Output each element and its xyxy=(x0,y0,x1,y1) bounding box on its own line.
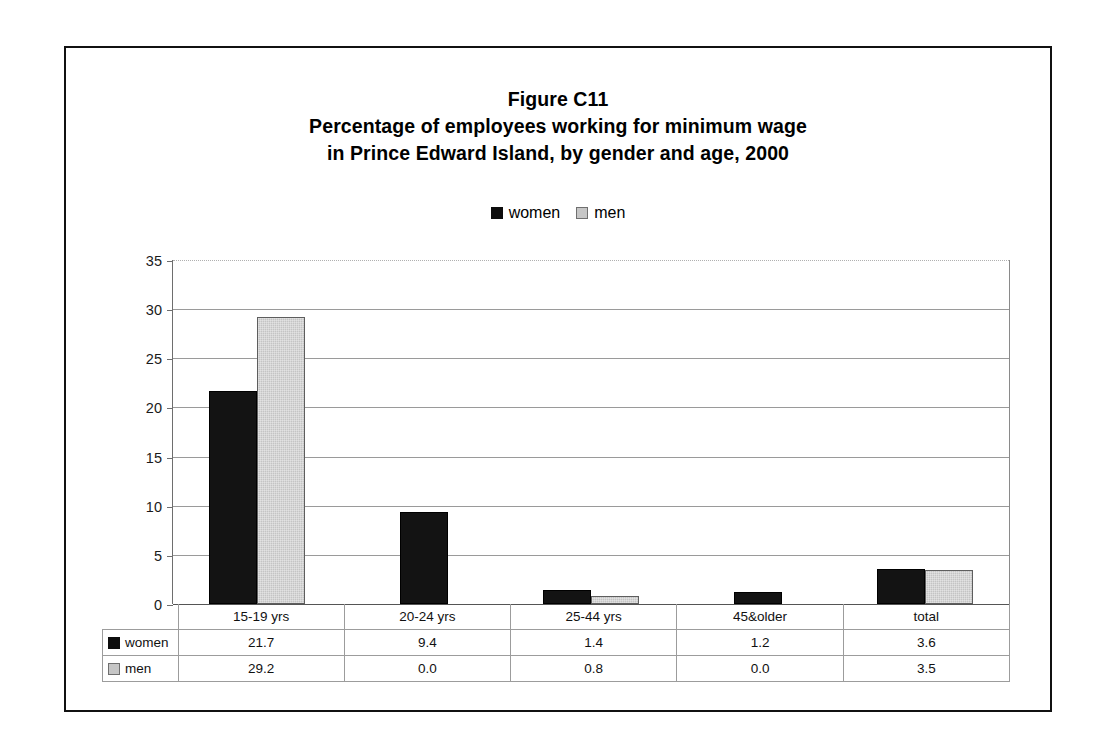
y-axis-label-10: 10 xyxy=(146,499,162,515)
legend-label-women: women xyxy=(509,204,561,222)
legend-item-women: women xyxy=(491,204,561,222)
bar-men-25-44-yrs xyxy=(591,596,639,604)
bar-group-25-44-yrs xyxy=(507,260,674,604)
table-cell-women-1: 9.4 xyxy=(344,630,510,656)
y-axis-label-5: 5 xyxy=(154,548,162,564)
legend-label-men: men xyxy=(594,204,625,222)
y-axis-label-30: 30 xyxy=(146,302,162,318)
table-row-header-women: women xyxy=(103,630,179,656)
bar-group-total xyxy=(842,260,1009,604)
table-cell-women-0: 21.7 xyxy=(178,630,344,656)
bar-women-15-19-yrs xyxy=(209,391,257,604)
legend-swatch-men-icon xyxy=(576,207,588,219)
bar-women-45-older xyxy=(734,592,782,604)
legend-swatch-women-icon xyxy=(491,207,503,219)
legend-item-men: men xyxy=(576,204,625,222)
table-category-header-2: 25-44 yrs xyxy=(511,604,677,630)
y-axis-label-35: 35 xyxy=(146,253,162,269)
table-category-header-0: 15-19 yrs xyxy=(178,604,344,630)
table-category-row: 15-19 yrs20-24 yrs25-44 yrs45&oldertotal xyxy=(103,604,1010,630)
table-cell-men-2: 0.8 xyxy=(511,656,677,682)
bar-men-15-19-yrs xyxy=(257,317,305,604)
table-swatch-women-icon xyxy=(108,637,120,649)
table-cell-men-0: 29.2 xyxy=(178,656,344,682)
bar-men-total xyxy=(925,570,973,604)
table-swatch-men-icon xyxy=(108,663,120,675)
table-row-header-men: men xyxy=(103,656,179,682)
y-axis-label-20: 20 xyxy=(146,400,162,416)
figure-title-line-2: in Prince Edward Island, by gender and a… xyxy=(66,140,1050,167)
figure-title-line-1: Percentage of employees working for mini… xyxy=(66,113,1050,140)
table-cell-women-2: 1.4 xyxy=(511,630,677,656)
chart-data-table: 15-19 yrs20-24 yrs25-44 yrs45&oldertotal… xyxy=(102,604,1010,682)
table-category-header-4: total xyxy=(843,604,1009,630)
figure-frame: Figure C11 Percentage of employees worki… xyxy=(64,46,1052,712)
chart-legend: women men xyxy=(66,204,1050,222)
table-category-header-1: 20-24 yrs xyxy=(344,604,510,630)
figure-title-block: Figure C11 Percentage of employees worki… xyxy=(66,86,1050,167)
bar-women-25-44-yrs xyxy=(543,590,591,604)
table-cell-men-1: 0.0 xyxy=(344,656,510,682)
table-cell-women-3: 1.2 xyxy=(677,630,843,656)
table-corner-cell xyxy=(103,604,179,630)
y-axis-label-25: 25 xyxy=(146,351,162,367)
bar-women-20-24-yrs xyxy=(400,512,448,604)
figure-number: Figure C11 xyxy=(66,86,1050,113)
table-cell-men-4: 3.5 xyxy=(843,656,1009,682)
table-row: women21.79.41.41.23.6 xyxy=(103,630,1010,656)
bar-women-total xyxy=(877,569,925,604)
bar-group-20-24-yrs xyxy=(340,260,507,604)
chart-plot-area: 05101520253035 xyxy=(172,260,1010,604)
table-category-header-3: 45&older xyxy=(677,604,843,630)
bar-groups xyxy=(173,260,1009,604)
bar-group-15-19-yrs xyxy=(173,260,340,604)
table-cell-men-3: 0.0 xyxy=(677,656,843,682)
table-row: men29.20.00.80.03.5 xyxy=(103,656,1010,682)
bar-group-45-older xyxy=(675,260,842,604)
table-row-label-women: women xyxy=(125,635,169,650)
table-cell-women-4: 3.6 xyxy=(843,630,1009,656)
y-axis-label-15: 15 xyxy=(146,450,162,466)
table-row-label-men: men xyxy=(125,661,151,676)
